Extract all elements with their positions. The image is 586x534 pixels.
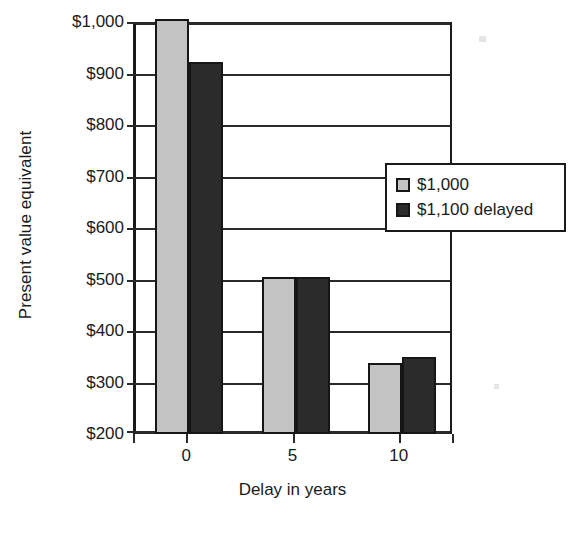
- y-axis-tick-label: $800: [86, 115, 124, 135]
- x-axis-tick-mark: [186, 434, 188, 443]
- chart-legend: $1,000 $1,100 delayed: [385, 163, 566, 232]
- x-axis-tick-label: 10: [389, 446, 408, 466]
- bar-5-series-1: [296, 277, 330, 435]
- y-axis-tick-mark: [127, 331, 136, 333]
- x-axis-edge-tick-mark: [133, 434, 135, 443]
- y-axis-tick-mark: [127, 228, 136, 230]
- y-axis-title: Present value equivalent: [8, 0, 44, 450]
- y-axis-tick-label: $900: [86, 64, 124, 84]
- bar-10-series-1: [402, 357, 436, 434]
- bar-5-series-0: [262, 277, 296, 435]
- legend-item: $1,100 delayed: [396, 197, 555, 222]
- y-axis-tick-mark: [127, 431, 136, 433]
- y-axis-tick-mark: [127, 125, 136, 127]
- y-axis-tick-mark: [127, 383, 136, 385]
- y-axis-tick-mark: [127, 280, 136, 282]
- y-axis-tick-mark: [127, 22, 136, 24]
- x-axis-title: Delay in years: [133, 480, 452, 500]
- x-axis-tick-marks: [133, 434, 452, 444]
- light-gray-swatch-icon: [396, 178, 410, 192]
- scan-speck: [479, 36, 486, 42]
- x-axis-tick-mark: [293, 434, 295, 443]
- y-axis-tick-label: $400: [86, 321, 124, 341]
- y-axis-tick-label: $700: [86, 167, 124, 187]
- y-axis-tick-label: $300: [86, 373, 124, 393]
- bar-chart: Present value equivalent $200$300$400$50…: [0, 0, 586, 534]
- y-axis-tick-label: $1,000: [72, 12, 124, 32]
- x-axis-tick-label: 5: [288, 446, 297, 466]
- y-axis-tick-labels: $200$300$400$500$600$700$800$900$1,000: [40, 22, 128, 434]
- y-axis-tick-mark: [127, 177, 136, 179]
- scan-speck: [494, 384, 499, 389]
- y-axis-tick-mark: [127, 74, 136, 76]
- x-axis-tick-mark: [399, 434, 401, 443]
- dark-gray-swatch-icon: [396, 203, 410, 217]
- y-axis-tick-label: $500: [86, 270, 124, 290]
- x-axis-edge-tick-mark: [452, 434, 454, 443]
- y-axis-tick-label: $600: [86, 218, 124, 238]
- bar-0-series-0: [155, 19, 189, 434]
- y-axis-tick-label: $200: [86, 424, 124, 444]
- legend-item-label: $1,100 delayed: [417, 200, 533, 220]
- legend-item: $1,000: [396, 172, 555, 197]
- x-axis-tick-labels: 0510: [133, 446, 452, 472]
- x-axis-tick-label: 0: [181, 446, 190, 466]
- bar-10-series-0: [368, 363, 402, 434]
- y-axis-title-text: Present value equivalent: [16, 131, 36, 320]
- bar-0-series-1: [189, 62, 223, 434]
- legend-item-label: $1,000: [417, 175, 469, 195]
